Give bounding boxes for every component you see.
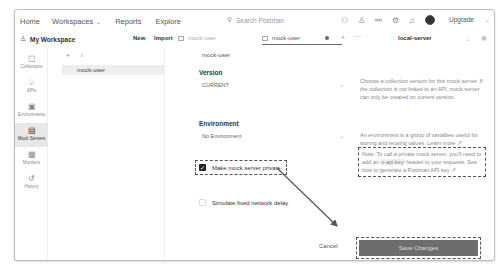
- environment-help: An environment is a group of variables u…: [360, 131, 485, 147]
- chevron-down-icon[interactable]: ⌄: [466, 35, 471, 42]
- filter-icon[interactable]: ⩡: [80, 52, 84, 60]
- sidebar-item-history[interactable]: ↺History: [15, 171, 48, 195]
- mock-servers-icon: ▤: [15, 126, 48, 136]
- environment-field[interactable]: No Environment⌄: [199, 130, 344, 142]
- chevron-down-icon: ⌄: [339, 130, 344, 142]
- nav-workspaces[interactable]: Workspaces⌄: [52, 17, 101, 26]
- history-icon: ↺: [15, 174, 48, 184]
- chevron-down-icon: ⌄: [339, 79, 344, 91]
- note-code: x-api-key: [380, 159, 404, 165]
- monitors-icon: ▦: [15, 150, 48, 160]
- toolbar: ♙My Workspace New Import mock-user mock-…: [15, 32, 494, 47]
- environment-select[interactable]: local-server: [398, 35, 432, 41]
- workspace-title[interactable]: ♙My Workspace: [20, 35, 75, 43]
- chevron-down-icon: ⌄: [96, 19, 101, 25]
- app-window: Home Workspaces⌄ Reports Explore ⚲ Searc…: [14, 9, 495, 261]
- environment-label: Environment: [199, 120, 239, 127]
- cancel-button[interactable]: Cancel: [319, 243, 338, 249]
- chevron-down-icon[interactable]: ⌄: [485, 16, 490, 23]
- more-icon[interactable]: ⋯: [354, 33, 361, 41]
- search-icon: ⚲: [227, 16, 232, 24]
- environment-value: No Environment: [202, 133, 241, 139]
- nav-workspaces-label: Workspaces: [52, 17, 93, 26]
- unsaved-dot-icon: [325, 36, 329, 40]
- list-item[interactable]: mock-user: [62, 65, 165, 75]
- new-tab-icon[interactable]: +: [341, 34, 345, 41]
- settings-icon[interactable]: ⚙: [392, 16, 399, 25]
- private-checkbox-row[interactable]: ✓ Make mock server private: [199, 164, 281, 171]
- active-tab-indicator: [262, 44, 342, 45]
- private-checkbox[interactable]: ✓: [199, 164, 206, 171]
- upgrade-button[interactable]: Upgrade: [449, 16, 474, 23]
- avatar[interactable]: [425, 15, 435, 25]
- sidebar-item-label: Collections: [20, 64, 42, 69]
- save-label: Save Changes: [399, 245, 438, 251]
- delay-checkbox-row[interactable]: Simulate fixed network delay: [199, 199, 288, 206]
- search-placeholder: Search Postman: [236, 17, 284, 24]
- tab-label: mock-user: [272, 35, 300, 41]
- import-button[interactable]: Import: [154, 35, 173, 41]
- private-label: Make mock server private: [212, 165, 281, 171]
- sidebar-item-apis[interactable]: ♧APIs: [15, 75, 48, 99]
- mock-name: mock-user: [202, 52, 230, 58]
- sidebar-item-mock-servers[interactable]: ▤Mock Servers: [15, 123, 48, 147]
- sidebar-item-label: History: [24, 184, 38, 189]
- nav-explore[interactable]: Explore: [155, 17, 180, 26]
- top-icons: ⚇ ♙ ⚯ ⚙ ♫: [341, 15, 435, 25]
- eye-icon[interactable]: ◉: [481, 34, 487, 42]
- collections-icon: ▢: [15, 54, 48, 64]
- delay-checkbox[interactable]: [199, 199, 206, 206]
- new-button[interactable]: New: [133, 35, 145, 41]
- team-icon[interactable]: ♙: [358, 16, 365, 25]
- version-help: Choose a collection version for this moc…: [360, 77, 485, 101]
- user-icon: ♙: [20, 35, 26, 43]
- sidebar-item-monitors[interactable]: ▦Monitors: [15, 147, 48, 171]
- add-icon[interactable]: +: [66, 52, 70, 60]
- sidebar-item-label: Monitors: [23, 160, 40, 165]
- version-value: CURRENT: [202, 82, 229, 88]
- nav-reports[interactable]: Reports: [115, 17, 141, 26]
- sidebar-item-environments[interactable]: ▣Environments: [15, 99, 48, 123]
- sidebar-item-collections[interactable]: ▢Collections: [15, 51, 48, 75]
- save-highlight-box: Save Changes: [356, 237, 481, 259]
- tab-label: mock-user: [188, 35, 216, 41]
- mock-server-icon: [178, 36, 184, 41]
- version-label: Version: [199, 69, 222, 76]
- apis-icon: ♧: [15, 78, 48, 88]
- mock-server-icon: [262, 36, 268, 41]
- mock-list-pane: + ⩡ mock-user: [48, 47, 165, 260]
- sidebar-item-label: Mock Servers: [18, 136, 46, 141]
- sidebar-item-label: Environments: [18, 112, 46, 117]
- list-tools: + ⩡: [66, 52, 84, 60]
- delay-label: Simulate fixed network delay: [212, 200, 288, 206]
- save-changes-button[interactable]: Save Changes: [359, 240, 478, 256]
- workspace-name: My Workspace: [30, 36, 75, 43]
- environments-icon: ▣: [15, 102, 48, 112]
- sidebar-item-label: APIs: [27, 88, 37, 93]
- tab-mock-user-2[interactable]: mock-user: [262, 35, 300, 41]
- private-note: Note: To call a private mock server, you…: [358, 147, 486, 177]
- tab-mock-user-1[interactable]: mock-user: [178, 35, 216, 41]
- search-input[interactable]: ⚲ Search Postman: [227, 16, 284, 24]
- sidebar: ▢Collections ♧APIs ▣Environments ▤Mock S…: [15, 47, 48, 260]
- version-select[interactable]: CURRENT⌄: [199, 79, 344, 91]
- notifications-icon[interactable]: ♫: [409, 16, 415, 25]
- invite-icon[interactable]: ⚇: [341, 16, 348, 25]
- satellite-icon[interactable]: ⚯: [375, 16, 382, 25]
- nav-home[interactable]: Home: [20, 17, 40, 26]
